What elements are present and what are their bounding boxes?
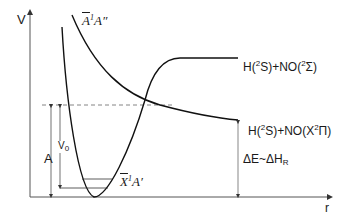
y-axis-label: V xyxy=(17,13,26,26)
potential-energy-diagram: V r A1A″ X1A′ H(2S)+NO(2Σ) H(2S)+NO(X2Π)… xyxy=(0,0,359,219)
ground-state-curve xyxy=(62,27,238,197)
upper-asymptote-label: H(2S)+NO(2Σ) xyxy=(243,60,317,73)
ground-state-label: X1A′ xyxy=(120,175,143,188)
diagram-graphics xyxy=(0,0,359,219)
x-axis-label: r xyxy=(325,202,329,214)
excited-state-curve xyxy=(72,15,238,120)
excited-state-label: A1A″ xyxy=(82,14,107,27)
A-label: A xyxy=(44,152,53,165)
deltaE-label: ΔE~ΔHR xyxy=(243,153,289,167)
V0-label: V0 xyxy=(58,141,69,153)
lower-asymptote-label: H(2S)+NO(X2Π) xyxy=(248,124,331,137)
